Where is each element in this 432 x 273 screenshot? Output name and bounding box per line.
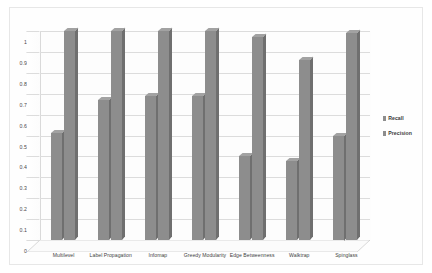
plot-floor <box>27 240 370 252</box>
bar-front-face <box>98 100 109 240</box>
chart-legend: RecallPrecision <box>383 115 429 145</box>
bar-front-face <box>286 161 297 240</box>
bar-side-face <box>357 30 360 240</box>
bar-group <box>286 31 310 240</box>
bar-front-face <box>51 133 62 240</box>
x-tick-label: Greedy Modularity <box>181 252 228 258</box>
bar-group <box>239 31 263 240</box>
bar-front-face <box>346 33 357 240</box>
x-tick-label: Multilevel <box>40 252 87 258</box>
bar-recall <box>51 133 62 240</box>
bar-recall <box>333 136 344 241</box>
bar-recall <box>286 161 297 240</box>
bar-front-face <box>64 31 75 240</box>
bar-group <box>51 31 75 240</box>
bar-precision <box>299 60 310 240</box>
legend-label: Recall <box>388 115 404 121</box>
bar-side-face <box>169 27 172 240</box>
legend-label: Precision <box>388 130 412 136</box>
x-tick-label: Walktrap <box>276 252 323 258</box>
bar-chart: 00.10.20.30.40.50.60.70.80.91 Multilevel… <box>0 0 432 273</box>
legend-item[interactable]: Precision <box>383 130 429 136</box>
y-tick-label: 0 <box>1 248 27 254</box>
legend-swatch-icon <box>383 131 386 136</box>
bar-precision <box>205 31 216 240</box>
bar-front-face <box>333 136 344 241</box>
bar-front-face <box>205 31 216 240</box>
bar-recall <box>145 96 156 240</box>
bar-side-face <box>75 27 78 240</box>
bar-precision <box>111 31 122 240</box>
bar-recall <box>98 100 109 240</box>
bar-precision <box>252 37 263 240</box>
bar-front-face <box>192 96 203 240</box>
bar-side-face <box>310 57 313 240</box>
x-tick-label: Spinglass <box>323 252 370 258</box>
bar-side-face <box>122 27 125 240</box>
legend-swatch-icon <box>383 116 386 121</box>
x-tick-label: Label Propagation <box>87 252 134 258</box>
bar-recall <box>192 96 203 240</box>
bar-precision <box>158 31 169 240</box>
bar-front-face <box>158 31 169 240</box>
bar-group <box>333 31 357 240</box>
bar-front-face <box>111 31 122 240</box>
bar-precision <box>64 31 75 240</box>
bar-front-face <box>239 156 250 240</box>
x-axis-labels: MultilevelLabel PropagationInfomapGreedy… <box>27 252 370 266</box>
legend-item[interactable]: Recall <box>383 115 429 121</box>
bar-group <box>98 31 122 240</box>
bar-recall <box>239 156 250 240</box>
bars-layer <box>40 31 370 240</box>
bar-front-face <box>145 96 156 240</box>
bar-side-face <box>216 27 219 240</box>
bar-side-face <box>263 34 266 240</box>
bar-group <box>192 31 216 240</box>
x-tick-label: Infomap <box>134 252 181 258</box>
bar-precision <box>346 33 357 240</box>
x-tick-label: Edge Betweenness <box>229 252 276 258</box>
bar-front-face <box>299 60 310 240</box>
floor-polygon <box>27 240 370 252</box>
bar-group <box>145 31 169 240</box>
bar-front-face <box>252 37 263 240</box>
